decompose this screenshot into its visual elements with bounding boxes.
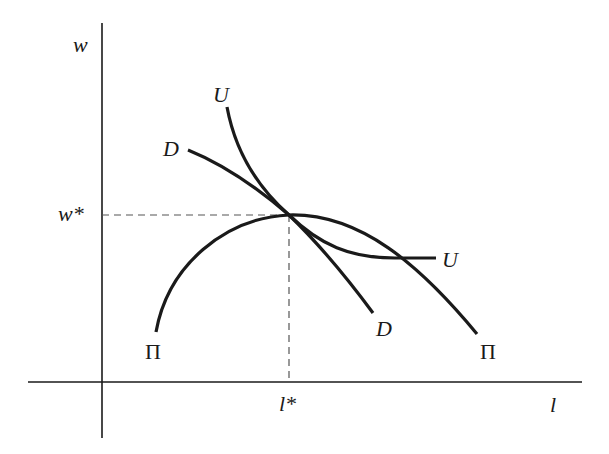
pi-curve-label-right: Π [480,341,496,363]
labor-market-diagram: w l w* l* U U D D Π Π [0,0,609,454]
u-curve-label-top: U [213,84,229,106]
isoprofit-curve [156,215,477,334]
pi-curve-label-left: Π [145,341,161,363]
d-curve-label-bottom: D [376,318,392,340]
diagram-canvas [0,0,609,454]
l-star-label: l* [279,393,296,415]
indifference-curve [227,107,436,258]
x-axis-label: l [550,394,556,416]
w-star-label: w* [58,203,84,225]
u-curve-label-right: U [442,249,458,271]
y-axis-label: w [73,34,88,56]
demand-curve [188,150,373,313]
d-curve-label-top: D [163,138,179,160]
